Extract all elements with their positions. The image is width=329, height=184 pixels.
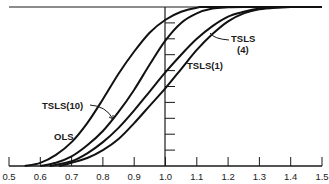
- x-tick-label: 0.8: [96, 171, 109, 182]
- x-tick-label: 0.5: [2, 171, 15, 182]
- x-tick-label: 0.7: [65, 171, 78, 182]
- x-tick-label: 0.6: [34, 171, 47, 182]
- label-tsls4-line1: TSLS: [231, 33, 255, 44]
- axes: 0.50.60.70.80.91.01.11.21.31.41.5: [2, 7, 328, 182]
- x-tick-label: 1.4: [284, 171, 297, 182]
- x-tick-label: 1.1: [190, 171, 203, 182]
- annotations: OLS TSLS(10) TSLS (4) TSLS(1): [42, 33, 255, 142]
- label-tsls4-line2: (4): [237, 44, 249, 55]
- x-tick-label: 0.9: [128, 171, 141, 182]
- x-tick-label: 1.5: [315, 171, 328, 182]
- label-tsls10: TSLS(10): [42, 100, 83, 111]
- x-tick-label: 1.3: [253, 171, 266, 182]
- x-tick-label: 1.2: [221, 171, 234, 182]
- label-ols: OLS: [54, 131, 74, 142]
- label-tsls1: TSLS(1): [187, 60, 223, 71]
- curve-tsls1: [59, 7, 322, 166]
- cdf-chart: 0.50.60.70.80.91.01.11.21.31.41.5 OLS TS…: [0, 0, 329, 184]
- curve-tsls10: [40, 7, 322, 166]
- x-tick-label: 1.0: [159, 171, 172, 182]
- x-ticks: 0.50.60.70.80.91.01.11.21.31.41.5: [2, 157, 328, 182]
